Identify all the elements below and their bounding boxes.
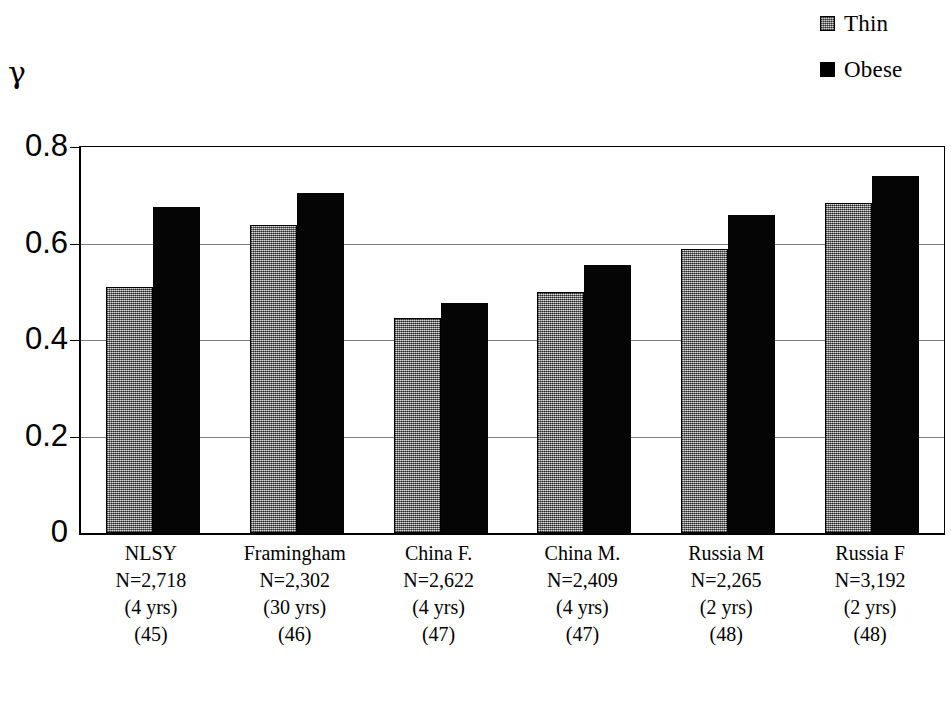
x-axis-ref-text: (48)	[654, 621, 798, 648]
x-axis-n-text: N=2,265	[654, 567, 798, 594]
x-axis-ref-text: (46)	[223, 621, 367, 648]
x-axis-group-label: FraminghamN=2,302(30 yrs)(46)	[223, 540, 367, 648]
bar-group	[225, 147, 369, 533]
legend-swatch-obese-icon	[820, 62, 835, 77]
x-axis-name-text: Russia F	[798, 540, 942, 567]
x-axis-years-text: (2 yrs)	[798, 594, 942, 621]
x-axis-ref-text: (47)	[367, 621, 511, 648]
x-axis-ref-text: (47)	[510, 621, 654, 648]
x-axis-name-text: China M.	[510, 540, 654, 567]
chart-legend: Thin Obese	[820, 0, 951, 92]
x-axis-group-label: China M.N=2,409(4 yrs)(47)	[510, 540, 654, 648]
bar-group	[800, 147, 944, 533]
bar-thin	[537, 292, 584, 533]
legend-item-obese: Obese	[820, 46, 951, 92]
bar-group	[81, 147, 225, 533]
bar-group	[656, 147, 800, 533]
bar-thin	[681, 249, 728, 533]
x-axis-ref-text: (48)	[798, 621, 942, 648]
bar-obese	[584, 265, 631, 533]
legend-swatch-thin-icon	[820, 16, 835, 31]
y-axis-tick-label: 0	[0, 516, 68, 547]
y-axis-tick-labels: 0.80.60.40.20	[0, 146, 68, 532]
y-axis-tickmark	[70, 437, 79, 438]
y-axis-tick-label: 0.4	[0, 323, 68, 354]
y-axis-title: γ	[8, 58, 26, 88]
x-axis-ref-text: (45)	[79, 621, 223, 648]
y-axis-tick-label: 0.8	[0, 130, 68, 161]
bar-obese	[872, 176, 919, 533]
bar-thin	[250, 225, 297, 533]
x-axis-n-text: N=2,302	[223, 567, 367, 594]
y-axis-tickmark	[70, 340, 79, 341]
x-axis-years-text: (4 yrs)	[367, 594, 511, 621]
x-axis-group-label: NLSYN=2,718(4 yrs)(45)	[79, 540, 223, 648]
y-axis-tick-label: 0.6	[0, 227, 68, 258]
legend-label-obese: Obese	[844, 58, 902, 81]
x-axis-name-text: NLSY	[79, 540, 223, 567]
x-axis-name-text: Russia M	[654, 540, 798, 567]
bar-series-container	[81, 147, 944, 533]
x-axis-name-text: China F.	[367, 540, 511, 567]
y-axis-tickmark	[70, 244, 79, 245]
x-axis-years-text: (2 yrs)	[654, 594, 798, 621]
x-axis-group-label: Russia MN=2,265(2 yrs)(48)	[654, 540, 798, 648]
bar-group	[369, 147, 513, 533]
x-axis-n-text: N=2,622	[367, 567, 511, 594]
legend-item-thin: Thin	[820, 0, 951, 46]
y-axis-tick-label: 0.2	[0, 420, 68, 451]
legend-label-thin: Thin	[844, 12, 888, 35]
bar-obese	[297, 193, 344, 533]
bar-thin	[394, 318, 441, 533]
x-axis-n-text: N=2,718	[79, 567, 223, 594]
x-axis-n-text: N=3,192	[798, 567, 942, 594]
bar-obese	[153, 207, 200, 533]
plot-area	[79, 146, 945, 535]
x-axis-years-text: (4 yrs)	[79, 594, 223, 621]
bar-obese	[728, 215, 775, 533]
bar-thin	[106, 287, 153, 533]
x-axis-group-label: Russia FN=3,192(2 yrs)(48)	[798, 540, 942, 648]
x-axis-group-label: China F.N=2,622(4 yrs)(47)	[367, 540, 511, 648]
x-axis-years-text: (30 yrs)	[223, 594, 367, 621]
bar-group	[512, 147, 656, 533]
x-axis-category-labels: NLSYN=2,718(4 yrs)(45)FraminghamN=2,302(…	[79, 540, 942, 648]
x-axis-n-text: N=2,409	[510, 567, 654, 594]
x-axis-name-text: Framingham	[223, 540, 367, 567]
y-axis-tickmark	[70, 147, 79, 148]
bar-thin	[825, 203, 872, 534]
bar-obese	[441, 303, 488, 533]
x-axis-years-text: (4 yrs)	[510, 594, 654, 621]
